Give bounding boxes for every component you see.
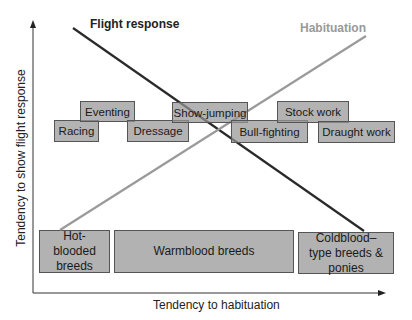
activity-dressage: Dressage [127,120,189,142]
activity-stock-work: Stock work [277,101,349,123]
y-axis-label: Tendency to show flight response [14,69,28,246]
activity-label: Dressage [133,124,182,138]
activity-label: Stock work [285,105,341,119]
activity-racing: Racing [54,120,99,142]
y-axis [30,20,36,293]
breed-hot-blooded: Hot-blooded breeds [39,230,110,273]
habituation-title: Habituation [300,21,366,35]
y-axis-arrow-icon [30,20,36,28]
x-axis [33,290,386,296]
activity-label: Draught work [322,125,390,139]
activity-label: Bull-fighting [239,125,299,139]
activity-draught-work: Draught work [318,121,395,143]
activity-label: Racing [59,124,95,138]
breed-coldblood: Coldblood–type breeds & ponies [298,232,394,274]
breed-label: Coldblood–type breeds & ponies [305,231,387,276]
flight-response-title: Flight response [90,17,179,31]
breed-label: Hot-blooded breeds [44,229,105,274]
x-axis-label: Tendency to habituation [153,298,280,312]
activity-eventing: Eventing [80,101,135,122]
activity-label: Eventing [85,105,130,119]
x-axis-arrow-icon [378,290,386,296]
activity-label: Show-jumping [174,106,247,120]
breed-label: Warmblood breeds [154,244,255,259]
breed-warmblood: Warmblood breeds [114,230,294,273]
activity-bull-fighting: Bull-fighting [231,120,308,143]
